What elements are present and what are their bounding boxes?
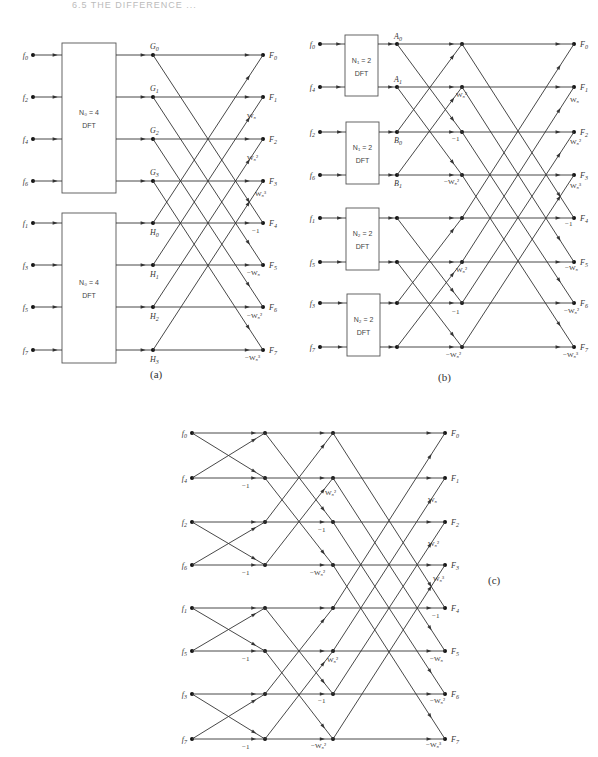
dft-block-outline	[62, 213, 116, 363]
input-label-f2: f2	[182, 518, 187, 528]
arrow-icon	[389, 345, 394, 349]
diagram-b-four-2-point-dft: f0f4f2f6f1f5f3f7N₁ = 2DFTN₁ = 2DFTN₂ = 2…	[310, 32, 589, 384]
twiddle-factor-label: −W₈²	[446, 351, 461, 359]
arrow-icon	[245, 221, 250, 225]
arrow-icon	[251, 606, 256, 610]
arrow-icon	[449, 173, 454, 177]
arrow-icon	[245, 179, 250, 183]
output-label-F1: F1	[450, 474, 459, 484]
arrow-icon	[141, 95, 146, 99]
arrow-icon	[388, 85, 393, 89]
dft-block-size: N₂ = 2	[354, 316, 374, 323]
arrow-icon	[251, 692, 256, 696]
dft-block-size: N₀ = 4	[79, 279, 99, 286]
node-label-H3: H3	[149, 355, 159, 365]
arrow-icon	[320, 737, 325, 741]
arrow-icon	[388, 173, 393, 177]
input-label-f4: f4	[23, 135, 28, 145]
arrow-icon	[556, 277, 562, 283]
twiddle-factor-label: −1	[242, 569, 250, 577]
output-label-F3: F3	[450, 561, 459, 571]
dft-block-size: N₀ = 4	[79, 109, 99, 116]
input-label-f5: f5	[310, 258, 315, 268]
dft-block-outline	[346, 122, 379, 184]
arrow-icon	[53, 95, 58, 99]
arrow-icon	[556, 260, 561, 264]
input-label-f6: f6	[23, 177, 28, 187]
arrow-icon	[245, 137, 250, 141]
twiddle-factor-label: W₈²	[456, 91, 467, 99]
twiddle-factor-label: −W₈	[430, 655, 444, 663]
twiddle-factor-label: −W₈	[565, 264, 579, 272]
fft-signal-flow-figure: f0f2f4f6f1f3f5f7N₀ = 4DFTN₀ = 4DFTG0G1G2…	[0, 0, 598, 757]
arrow-icon	[141, 221, 146, 225]
arrow-icon	[251, 476, 256, 480]
arrow-icon	[141, 179, 146, 183]
output-label-F1: F1	[268, 93, 277, 103]
arrow-icon	[338, 301, 343, 305]
input-label-f7: f7	[23, 346, 29, 356]
input-label-f5: f5	[23, 303, 28, 313]
output-label-F5: F5	[450, 647, 459, 657]
output-label-F6: F6	[450, 690, 459, 700]
node-label-H1: H1	[149, 270, 159, 280]
diagram-c-full-8-point-fft: f0f4f2f6f1f5f3f7F0F1F2F3F4F5F6F7−1−1−1−1…	[182, 429, 501, 751]
arrow-icon	[427, 649, 432, 653]
arrow-icon	[141, 348, 146, 352]
arrow-icon	[389, 301, 394, 305]
node-label-B1: B1	[394, 179, 402, 189]
arrow-icon	[320, 476, 325, 480]
twiddle-factor-label: −1	[242, 743, 250, 751]
dft-block-size: N₁ = 2	[352, 57, 371, 64]
arrow-icon	[449, 260, 454, 264]
arrow-icon	[141, 137, 146, 141]
dft-block-title: DFT	[356, 157, 370, 164]
input-label-f1: f1	[182, 604, 187, 614]
arrow-icon	[427, 453, 433, 459]
arrow-icon	[449, 216, 454, 220]
output-label-F0: F0	[268, 51, 277, 61]
arrow-icon	[245, 53, 250, 57]
twiddle-factor-label: −W₈²	[247, 312, 262, 320]
arrow-icon	[251, 526, 257, 532]
twiddle-factor-label: W₈	[570, 96, 580, 104]
output-label-F2: F2	[268, 135, 277, 145]
arrow-icon	[320, 649, 325, 653]
arrow-icon	[320, 520, 325, 524]
input-label-f6: f6	[310, 171, 315, 181]
dft-block-title: DFT	[357, 329, 371, 336]
arrow-icon	[251, 563, 256, 567]
arrow-icon	[427, 520, 432, 524]
output-label-F3: F3	[268, 177, 277, 187]
output-label-F0: F0	[579, 40, 588, 50]
node-label-H0: H0	[149, 228, 159, 238]
arrow-icon	[556, 107, 562, 113]
arrow-icon	[251, 729, 257, 735]
input-label-f3: f3	[310, 299, 315, 309]
arrow-icon	[556, 236, 562, 242]
arrow-icon	[427, 625, 433, 631]
arrow-icon	[251, 649, 256, 653]
node-label-G1: G1	[150, 84, 159, 94]
twiddle-factor-label: −1	[452, 308, 460, 316]
input-label-f0: f0	[23, 51, 28, 61]
diagram-caption-c: (c)	[488, 574, 501, 587]
output-label-F2: F2	[450, 518, 459, 528]
arrow-icon	[320, 431, 325, 435]
arrow-icon	[337, 260, 342, 264]
arrow-icon	[449, 345, 454, 349]
arrow-icon	[251, 468, 257, 474]
arrow-icon	[556, 301, 561, 305]
output-label-F1: F1	[579, 83, 588, 93]
arrow-icon	[388, 260, 393, 264]
input-label-f3: f3	[23, 261, 28, 271]
twiddle-factor-label: −W₈³	[563, 351, 578, 359]
output-label-F7: F7	[268, 346, 278, 356]
arrow-icon	[141, 53, 146, 57]
twiddle-factor-label: W₈³	[433, 575, 444, 583]
arrow-icon	[337, 130, 342, 134]
arrow-icon	[449, 42, 454, 46]
dft-block-outline	[62, 43, 116, 193]
arrow-icon	[53, 305, 58, 309]
arrow-icon	[556, 173, 561, 177]
